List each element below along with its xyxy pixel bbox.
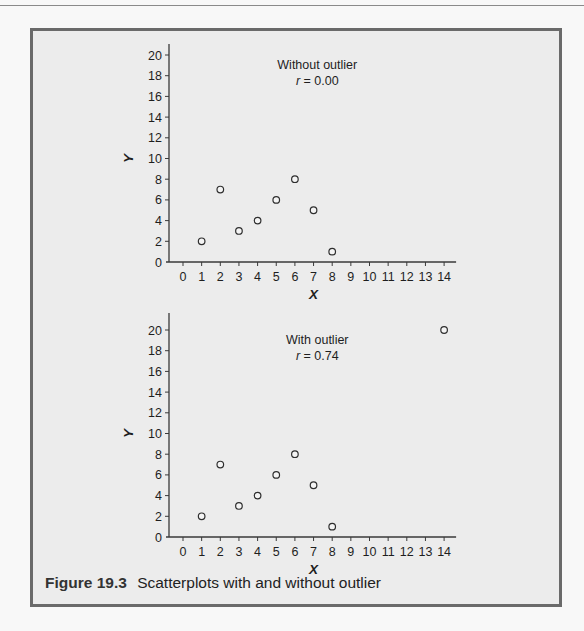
x-tick-label: 5 bbox=[273, 545, 280, 559]
x-tick-label: 8 bbox=[329, 545, 336, 559]
data-point bbox=[198, 513, 205, 520]
y-tick-label: 8 bbox=[155, 448, 162, 462]
x-tick-label: 7 bbox=[310, 545, 317, 559]
x-tick-label: 14 bbox=[437, 545, 451, 559]
x-tick-label: 13 bbox=[418, 545, 432, 559]
figure-caption: Figure 19.3 Scatterplots with and withou… bbox=[45, 574, 381, 592]
y-tick-label: 20 bbox=[148, 324, 162, 338]
data-point bbox=[310, 482, 317, 489]
data-point bbox=[236, 503, 243, 510]
x-tick-label: 2 bbox=[217, 545, 224, 559]
x-tick-label: 3 bbox=[235, 545, 242, 559]
y-tick-label: 18 bbox=[148, 344, 162, 358]
x-tick-label: 9 bbox=[347, 545, 354, 559]
y-tick-label: 4 bbox=[155, 489, 162, 503]
figure-number: Figure 19.3 bbox=[45, 574, 127, 591]
data-point bbox=[254, 492, 261, 499]
chart-svg: 0246810121416182001234567891011121314XYW… bbox=[33, 31, 559, 604]
correlation-annotation: r = 0.74 bbox=[296, 349, 339, 363]
scatterplot-with-outlier: 0246810121416182001234567891011121314XYW… bbox=[33, 31, 559, 608]
y-tick-label: 0 bbox=[155, 531, 162, 545]
y-tick-label: 16 bbox=[148, 365, 162, 379]
y-tick-label: 14 bbox=[148, 386, 162, 400]
x-tick-label: 4 bbox=[254, 545, 261, 559]
textbook-page: 0246810121416182001234567891011121314XYW… bbox=[0, 0, 584, 631]
figure-caption-text: Scatterplots with and without outlier bbox=[137, 574, 381, 591]
y-axis-label: Y bbox=[121, 427, 136, 438]
x-tick-label: 12 bbox=[400, 545, 414, 559]
data-point bbox=[217, 461, 224, 468]
annotation-title: With outlier bbox=[286, 333, 349, 347]
y-tick-label: 6 bbox=[155, 468, 162, 482]
y-tick-label: 10 bbox=[148, 427, 162, 441]
y-tick-label: 2 bbox=[155, 510, 162, 524]
page-top-rule bbox=[0, 5, 584, 6]
x-tick-label: 1 bbox=[198, 545, 205, 559]
data-point bbox=[292, 451, 299, 458]
x-tick-label: 6 bbox=[291, 545, 298, 559]
data-point bbox=[329, 523, 336, 530]
figure-box: 0246810121416182001234567891011121314XYW… bbox=[30, 28, 562, 607]
x-tick-label: 11 bbox=[382, 545, 395, 559]
data-point bbox=[273, 472, 280, 479]
y-tick-label: 12 bbox=[148, 406, 162, 420]
x-tick-label: 10 bbox=[363, 545, 377, 559]
x-tick-label: 0 bbox=[180, 545, 187, 559]
data-point bbox=[441, 327, 448, 334]
